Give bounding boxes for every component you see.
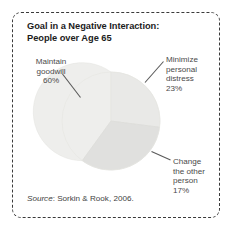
leader-line-minimize-distress (145, 62, 164, 83)
label-minimize-distress: Minimize personal distress 23% (166, 55, 198, 94)
label-minimize-distress-line-1: Minimize (166, 55, 198, 65)
label-maintain-goodwill-value: 60% (22, 76, 80, 86)
label-change-other-person: Change the other person 17% (173, 157, 205, 196)
source-citation: Sorkin & Rook, 2006. (57, 194, 133, 203)
label-change-other-person-line-3: person (173, 176, 205, 186)
source-note: Source: Sorkin & Rook, 2006. (27, 194, 134, 203)
leader-line-change-other-person (152, 152, 171, 161)
label-minimize-distress-line-2: personal (166, 65, 198, 75)
label-change-other-person-line-2: the other (173, 167, 205, 177)
label-change-other-person-line-1: Change (173, 157, 205, 167)
label-maintain-goodwill: Maintain goodwill 60% (22, 57, 80, 86)
pie-slice-minimize-distress[interactable] (111, 72, 160, 127)
chart-figure: Goal in a Negative Interaction: People o… (0, 0, 233, 226)
label-minimize-distress-line-3: distress (166, 74, 198, 84)
label-minimize-distress-value: 23% (166, 84, 198, 94)
label-maintain-goodwill-line-1: Maintain (22, 57, 80, 67)
source-label: Source (27, 194, 53, 203)
label-change-other-person-value: 17% (173, 186, 205, 196)
label-maintain-goodwill-line-2: goodwill (22, 67, 80, 77)
